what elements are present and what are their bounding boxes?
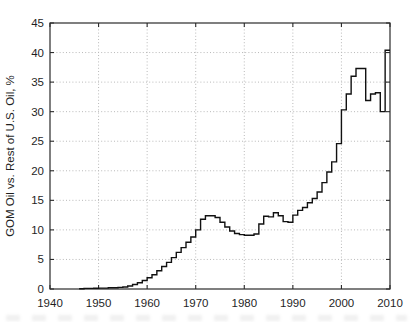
y-tick-label-5: 5 xyxy=(38,253,44,265)
gridlines xyxy=(50,23,390,289)
x-tick-labels: 19401950196019701980199020002010 xyxy=(37,297,403,309)
data-series xyxy=(79,50,390,289)
x-tick-label-1990: 1990 xyxy=(280,297,306,309)
y-axis-label: GOM Oil vs. Rest of U.S. Oil, % xyxy=(4,75,16,237)
figure: 19401950196019701980199020002010 0510152… xyxy=(0,0,413,322)
x-tick-label-2000: 2000 xyxy=(329,297,355,309)
x-tick-label-2010: 2010 xyxy=(377,297,403,309)
x-tick-label-1950: 1950 xyxy=(86,297,112,309)
y-tick-label-15: 15 xyxy=(31,194,44,206)
step-chart: 19401950196019701980199020002010 0510152… xyxy=(0,0,413,322)
y-tick-label-30: 30 xyxy=(31,106,44,118)
cropped-text-remnant xyxy=(6,315,407,321)
y-tick-label-10: 10 xyxy=(31,224,44,236)
y-tick-label-25: 25 xyxy=(31,135,44,147)
x-tick-label-1940: 1940 xyxy=(37,297,63,309)
y-tick-label-0: 0 xyxy=(38,283,44,295)
y-tick-labels: 051015202530354045 xyxy=(31,17,44,295)
x-tick-label-1960: 1960 xyxy=(134,297,160,309)
y-tick-label-40: 40 xyxy=(31,47,44,59)
y-tick-label-45: 45 xyxy=(31,17,44,29)
x-tick-label-1970: 1970 xyxy=(183,297,209,309)
y-tick-label-35: 35 xyxy=(31,76,44,88)
tick-marks xyxy=(50,23,390,289)
plot-box xyxy=(50,23,390,289)
series-line-0 xyxy=(79,50,390,289)
x-tick-label-1980: 1980 xyxy=(231,297,257,309)
axes-box xyxy=(50,23,390,289)
y-tick-label-20: 20 xyxy=(31,165,44,177)
